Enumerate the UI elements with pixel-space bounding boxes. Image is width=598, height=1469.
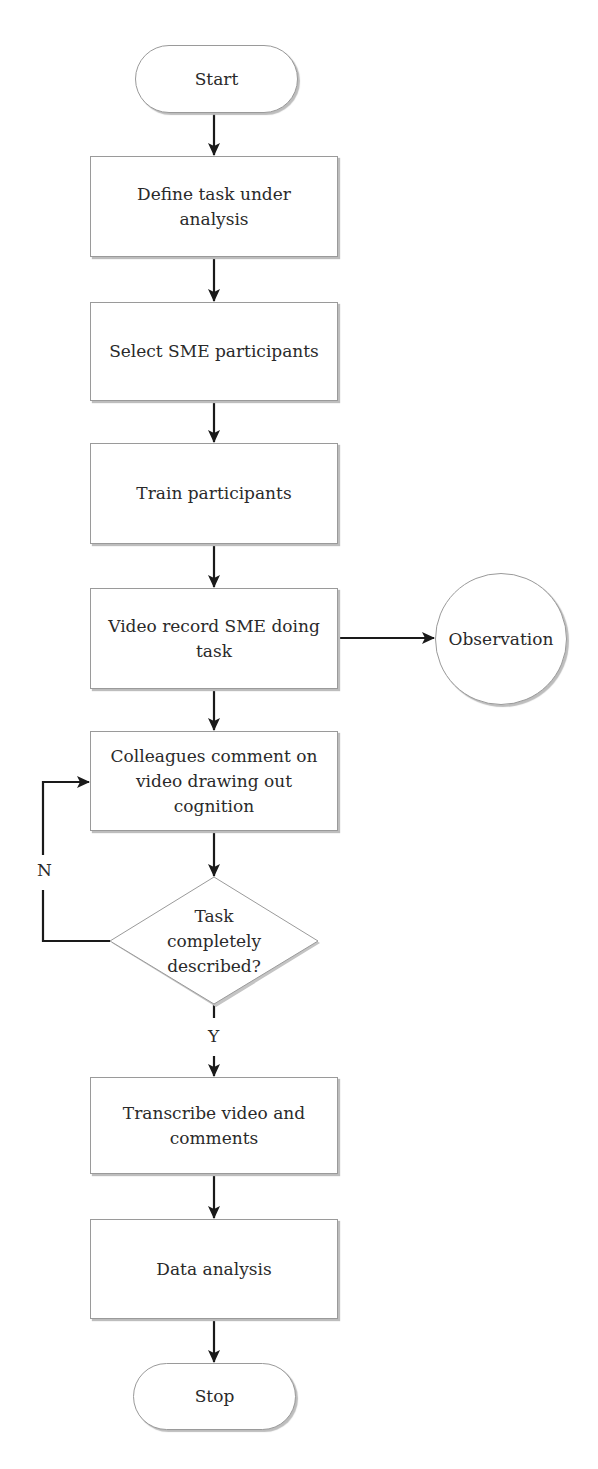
step-define-task: Define task under analysis	[90, 156, 338, 257]
transcribe-label-line1: Transcribe video and	[123, 1101, 305, 1126]
start-label: Start	[195, 67, 239, 92]
start-terminal: Start	[135, 45, 298, 113]
observation-connector: Observation	[435, 573, 567, 705]
arrow-decision-no-loop-upper	[43, 782, 89, 855]
step-transcribe: Transcribe video and comments	[90, 1077, 338, 1174]
step-colleagues-comment: Colleagues comment on video drawing out …	[90, 731, 338, 831]
decision-label-line1: Task	[194, 904, 233, 929]
analysis-label: Data analysis	[156, 1257, 271, 1282]
arrow-decision-no-loop	[43, 890, 110, 941]
define-label-line1: Define task under	[137, 182, 291, 207]
train-label: Train participants	[136, 481, 291, 506]
video-label-line2: task	[196, 639, 232, 664]
stop-label: Stop	[195, 1384, 235, 1409]
video-label-line1: Video record SME doing	[108, 614, 320, 639]
yes-branch-label: Y	[208, 1026, 219, 1046]
select-label: Select SME participants	[109, 339, 319, 364]
no-branch-label: N	[37, 860, 52, 880]
step-video-record: Video record SME doing task	[90, 588, 338, 689]
decision-text: Task completely described?	[130, 890, 298, 992]
colleagues-label-line3: cognition	[174, 794, 254, 819]
transcribe-label-line2: comments	[170, 1126, 259, 1151]
decision-label-line2: completely	[167, 929, 261, 954]
stop-terminal: Stop	[133, 1363, 296, 1430]
observation-label: Observation	[449, 627, 554, 652]
colleagues-label-line2: video drawing out	[136, 769, 292, 794]
step-train-participants: Train participants	[90, 443, 338, 544]
define-label-line2: analysis	[179, 207, 248, 232]
step-select-sme: Select SME participants	[90, 302, 338, 401]
step-data-analysis: Data analysis	[90, 1219, 338, 1319]
colleagues-label-line1: Colleagues comment on	[111, 744, 318, 769]
decision-label-line3: described?	[167, 954, 261, 979]
